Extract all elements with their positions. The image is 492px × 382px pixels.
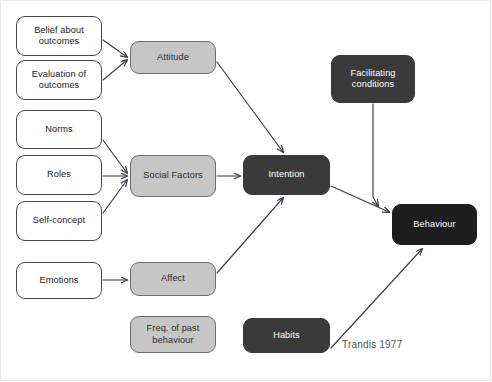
node-label-facilitating_conditions: Facilitating conditions xyxy=(336,68,410,91)
node-label-self_concept: Self-concept xyxy=(21,215,97,227)
edge-self-concept-to-social-factors xyxy=(103,180,127,213)
node-label-evaluation_of_outcomes: Evaluation of outcomes xyxy=(21,69,97,92)
edge-norms-to-social-factors xyxy=(103,140,127,173)
edge-evaluation-to-attitude xyxy=(103,60,127,80)
node-label-habits: Habits xyxy=(248,330,325,342)
node-affect[interactable]: Affect xyxy=(130,262,216,296)
node-social_factors[interactable]: Social Factors xyxy=(130,155,216,197)
node-attitude[interactable]: Attitude xyxy=(130,41,216,74)
node-label-affect: Affect xyxy=(135,273,211,285)
node-habits[interactable]: Habits xyxy=(243,318,330,353)
node-norms[interactable]: Norms xyxy=(16,110,102,149)
node-emotions[interactable]: Emotions xyxy=(16,262,102,299)
edge-facilitating-conditions-to-behaviour xyxy=(373,104,378,206)
diagram-canvas: Belief about outcomesEvaluation of outco… xyxy=(0,0,492,382)
edge-belief-to-attitude xyxy=(103,40,127,57)
node-evaluation_of_outcomes[interactable]: Evaluation of outcomes xyxy=(16,60,102,100)
node-label-social_factors: Social Factors xyxy=(135,170,211,182)
node-label-emotions: Emotions xyxy=(21,275,97,287)
node-belief_about_outcomes[interactable]: Belief about outcomes xyxy=(16,16,102,56)
node-label-freq_of_past_behaviour: Freq. of past behaviour xyxy=(135,323,211,346)
node-behaviour[interactable]: Behaviour xyxy=(392,204,477,245)
node-label-intention: Intention xyxy=(248,169,325,181)
node-roles[interactable]: Roles xyxy=(16,155,102,195)
node-label-roles: Roles xyxy=(21,169,97,181)
citation-label: Trandis 1977 xyxy=(342,339,402,350)
node-label-attitude: Attitude xyxy=(135,52,211,64)
node-facilitating_conditions[interactable]: Facilitating conditions xyxy=(331,55,415,103)
node-label-norms: Norms xyxy=(21,124,97,136)
edge-attitude-to-intention xyxy=(217,62,283,152)
node-freq_of_past_behaviour[interactable]: Freq. of past behaviour xyxy=(130,316,216,353)
node-intention[interactable]: Intention xyxy=(243,155,330,195)
edge-habits-to-behaviour xyxy=(331,249,422,348)
node-label-behaviour: Behaviour xyxy=(397,219,472,231)
edge-intention-to-behaviour xyxy=(331,186,389,212)
node-label-belief_about_outcomes: Belief about outcomes xyxy=(21,25,97,48)
edge-affect-to-intention xyxy=(217,198,283,273)
node-self_concept[interactable]: Self-concept xyxy=(16,201,102,241)
